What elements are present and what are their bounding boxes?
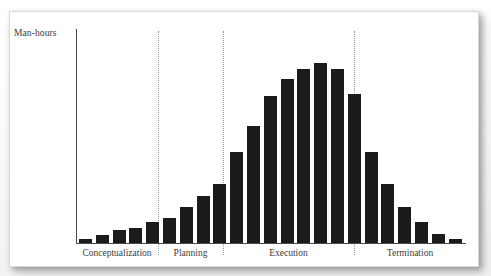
bar: [230, 152, 243, 243]
bar: [348, 94, 361, 243]
bar: [365, 152, 378, 243]
bar: [314, 63, 327, 243]
bar: [129, 228, 142, 243]
bar: [197, 196, 210, 243]
bar: [331, 69, 344, 243]
bar: [79, 239, 92, 243]
plot-area: Man-hours ConceptualizationPlanningExecu…: [0, 0, 491, 276]
bar: [381, 184, 394, 243]
bar: [113, 230, 126, 243]
bar: [449, 239, 462, 243]
bar: [180, 207, 193, 243]
chart-figure: Man-hours ConceptualizationPlanningExecu…: [0, 0, 491, 276]
bar: [213, 184, 226, 243]
phase-label-termination: Termination: [354, 248, 466, 258]
phase-label-execution: Execution: [223, 248, 354, 258]
bar: [247, 126, 260, 243]
bar: [415, 222, 428, 243]
phase-label-planning: Planning: [158, 248, 223, 258]
bar: [96, 235, 109, 243]
bar: [146, 222, 159, 243]
bar: [264, 96, 277, 243]
bar: [281, 79, 294, 243]
bar: [297, 69, 310, 243]
bar: [398, 207, 411, 243]
bar-series: [0, 0, 491, 276]
phase-label-conceptualization: Conceptualization: [76, 248, 158, 258]
bar: [432, 234, 445, 243]
bar: [163, 218, 176, 243]
